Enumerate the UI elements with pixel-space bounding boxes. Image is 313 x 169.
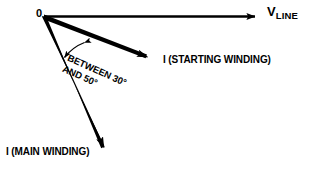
v-line-symbol: V	[267, 4, 276, 19]
v-line-subscript: LINE	[276, 10, 298, 21]
phasor-diagram-figure: 0 VLINE I (STARTING WINDING) I (MAIN WIN…	[0, 0, 313, 169]
origin-label: 0	[36, 8, 42, 19]
main-winding-label: I (MAIN WINDING)	[6, 147, 89, 157]
phasor-diagram-canvas	[0, 0, 313, 169]
v-line-label: VLINE	[267, 5, 298, 18]
starting-winding-label: I (STARTING WINDING)	[163, 55, 271, 65]
